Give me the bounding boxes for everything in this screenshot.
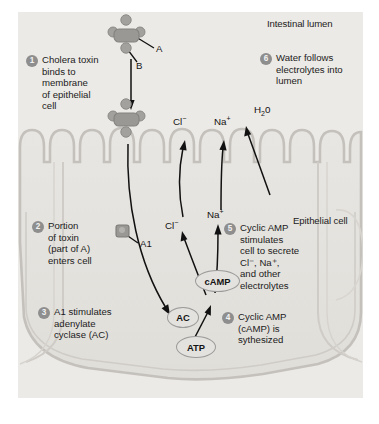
- step-6-text: Water follows electrolytes into lumen: [276, 52, 343, 87]
- ion-label-chloride-lumen: Cl−: [173, 115, 186, 127]
- toxin-a1-fragment: [116, 225, 129, 237]
- step-2-text: Portion of toxin (part of A) enters cell: [48, 220, 92, 266]
- step-1-callout: 1 Cholera toxin binds to membrane of epi…: [26, 54, 118, 112]
- toxin-subunit-b-label: B: [136, 60, 142, 71]
- step-4-badge: 4: [222, 312, 234, 324]
- diagram-canvas: Intestinal lumen Epithelial cell A B A1 …: [18, 12, 363, 398]
- step-6-callout: 6 Water follows electrolytes into lumen: [260, 52, 360, 87]
- step-3-callout: 3 A1 stimulates adenylate cyclase (AC): [38, 306, 150, 341]
- ion-label-water-lumen: H20: [254, 104, 270, 117]
- step-4-callout: 4 Cyclic AMP (cAMP) is sythesized: [222, 311, 310, 346]
- ion-label-sodium-lumen: Na+: [214, 115, 231, 127]
- step-1-text: Cholera toxin binds to membrane of epith…: [42, 54, 99, 112]
- step-5-callout: 5 Cyclic AMP stimulates cell to secrete …: [224, 222, 320, 291]
- step-6-badge: 6: [260, 53, 272, 65]
- toxin-subunit-a-label: A: [156, 43, 162, 54]
- toxin-subunit-a1-label: A1: [140, 238, 152, 249]
- molecule-ac: AC: [167, 307, 199, 328]
- step-3-text: A1 stimulates adenylate cyclase (AC): [54, 306, 112, 341]
- step-2-callout: 2 Portion of toxin (part of A) enters ce…: [32, 220, 110, 266]
- intestinal-lumen-label: Intestinal lumen: [267, 18, 333, 29]
- ion-label-sodium-cytoplasm: Na+: [207, 208, 224, 220]
- molecule-atp: ATP: [176, 336, 216, 358]
- step-2-badge: 2: [32, 221, 44, 233]
- step-4-text: Cyclic AMP (cAMP) is sythesized: [238, 311, 287, 346]
- step-3-badge: 3: [38, 307, 50, 319]
- cholera-toxin-mechanism-figure: Intestinal lumen Epithelial cell A B A1 …: [0, 0, 379, 424]
- step-1-badge: 1: [26, 55, 38, 67]
- ion-label-chloride-cytoplasm: Cl−: [165, 219, 178, 231]
- step-5-badge: 5: [224, 223, 236, 235]
- step-5-text: Cyclic AMP stimulates cell to secrete Cl…: [240, 222, 299, 291]
